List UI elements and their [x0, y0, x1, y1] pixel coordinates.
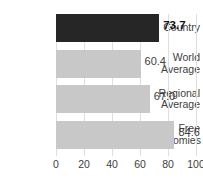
bar-row: 84.6 [56, 121, 196, 149]
bar-value-label-1: 73.7 [163, 19, 185, 31]
bar-4 [56, 121, 174, 149]
x-tick-label-60: 60 [134, 158, 146, 170]
bar-row: 67.0 [56, 85, 196, 113]
x-tick-label-20: 20 [78, 158, 90, 170]
bar-row: 73.7 [56, 14, 196, 42]
bar-value-label-4: 84.6 [178, 126, 199, 138]
bar-2 [56, 50, 141, 78]
bar-chart: CountryWorldAverageRegionalAverageFreeEc… [0, 0, 203, 182]
x-tick-label-100: 100 [187, 158, 203, 170]
bar-1 [56, 14, 159, 42]
chart-title [0, 0, 203, 3]
bar-row: 60.4 [56, 50, 196, 78]
x-axis-ticks: 020406080100 [56, 158, 196, 174]
x-tick-label-80: 80 [162, 158, 174, 170]
x-tick-label-0: 0 [53, 158, 59, 170]
x-tick-label-40: 40 [106, 158, 118, 170]
bar-value-label-2: 60.4 [145, 55, 166, 67]
bar-value-label-3: 67.0 [154, 90, 175, 102]
plot-area: 73.760.467.084.6 [56, 14, 196, 156]
bar-3 [56, 85, 150, 113]
